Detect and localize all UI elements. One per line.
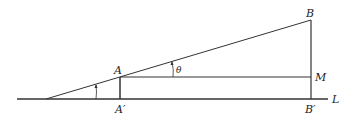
label-M: M bbox=[314, 71, 327, 84]
label-theta: θ bbox=[176, 65, 182, 75]
label-A: A bbox=[113, 64, 122, 77]
label-B-prime: B′ bbox=[304, 103, 316, 116]
geometry-diagram: A A′ B B′ M L θ bbox=[0, 0, 355, 120]
line-OB bbox=[46, 20, 311, 99]
label-B: B bbox=[305, 7, 314, 20]
label-A-prime: A′ bbox=[114, 103, 126, 116]
label-L: L bbox=[331, 93, 339, 106]
